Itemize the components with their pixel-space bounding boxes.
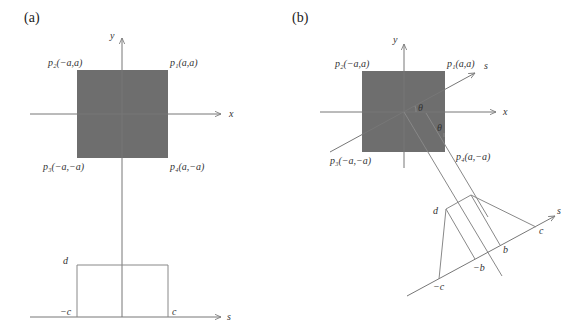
s-axis-label-a: s — [227, 311, 231, 322]
s-axis-rotated-label-b: s — [484, 60, 488, 71]
projection-profile-b — [439, 195, 536, 279]
panel-b: (b) x y s p₂(−a,a) p₁(a,a) p₃(−a,−a) p₄(… — [292, 10, 561, 296]
figure: (a) x y p₂(−a,a) p₁(a,a) p₃(−a,−a) p₄(a,… — [0, 0, 583, 333]
profile-inner-left — [446, 209, 475, 259]
corner-p4-a: p₄(a,−a) — [169, 161, 205, 173]
label-b-b: b — [503, 244, 508, 255]
panel-a: (a) x y p₂(−a,a) p₁(a,a) p₃(−a,−a) p₄(a,… — [24, 10, 234, 322]
corner-p1-a: p₁(a,a) — [169, 57, 198, 69]
label-d-a: d — [63, 255, 69, 266]
x-axis-label-a: x — [228, 108, 234, 119]
label-neg-b-b: −b — [473, 262, 485, 273]
corner-p3-a: p₃(−a,−a) — [42, 161, 85, 173]
s-axis-projection-label-b: s — [557, 205, 561, 216]
corner-p4-b: p₄(a,−a) — [455, 151, 491, 163]
corner-p2-a: p₂(−a,a) — [47, 57, 83, 69]
corner-p1-b: p₁(a,a) — [446, 58, 475, 70]
label-neg-c-b: −c — [433, 281, 445, 292]
panel-a-label: (a) — [24, 10, 40, 26]
y-axis-label-b: y — [392, 34, 398, 45]
x-axis-label-b: x — [502, 106, 508, 117]
corner-p2-b: p₂(−a,a) — [334, 58, 370, 70]
y-axis-label-a: y — [109, 30, 115, 41]
label-d-b: d — [433, 205, 439, 216]
corner-p3-b: p₃(−a,−a) — [329, 155, 372, 167]
label-c-a: c — [172, 306, 177, 317]
panel-b-label: (b) — [292, 10, 309, 26]
projection-ray-center — [404, 112, 502, 276]
label-neg-c-a: −c — [60, 306, 72, 317]
label-c-b: c — [539, 225, 544, 236]
theta-label-1: θ — [418, 102, 423, 113]
theta-label-2: θ — [437, 122, 442, 133]
s-axis-projection-b — [407, 216, 555, 296]
